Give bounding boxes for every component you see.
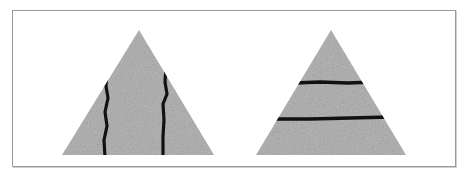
panel-frame xyxy=(12,10,456,167)
figure-root: Two shaded triangles partitioned by blac… xyxy=(0,0,470,179)
